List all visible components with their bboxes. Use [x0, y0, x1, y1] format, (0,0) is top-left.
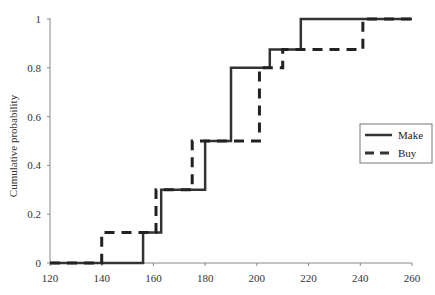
x-tick-label: 220	[300, 272, 317, 284]
series-group	[50, 19, 412, 263]
y-tick-label: 1	[36, 13, 42, 25]
x-tick-label: 240	[352, 272, 369, 284]
y-tick-label: 0.6	[27, 111, 41, 123]
y-tick-label: 0.8	[27, 62, 41, 74]
cdf-chart: 00.20.40.60.81120140160180200220240260Cu…	[0, 0, 435, 295]
x-tick-label: 160	[145, 272, 162, 284]
x-tick-label: 180	[197, 272, 214, 284]
legend-buy-label: Buy	[398, 147, 417, 159]
axes: 00.20.40.60.81120140160180200220240260Cu…	[7, 13, 421, 284]
x-tick-label: 140	[93, 272, 110, 284]
y-tick-label: 0.4	[27, 159, 41, 171]
x-tick-label: 260	[404, 272, 421, 284]
y-axis-title: Cumulative probability	[7, 94, 19, 197]
series-make-line	[50, 19, 412, 263]
y-tick-label: 0.2	[27, 208, 41, 220]
legend-make-label: Make	[398, 129, 423, 141]
legend: MakeBuy	[360, 124, 432, 163]
x-tick-label: 120	[42, 272, 59, 284]
x-tick-label: 200	[249, 272, 266, 284]
y-tick-label: 0	[36, 257, 42, 269]
